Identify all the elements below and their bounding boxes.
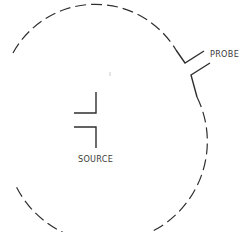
probe-icon — [176, 50, 210, 97]
source-label: SOURCE — [78, 154, 113, 164]
probe-label: PROBE — [210, 49, 239, 59]
source-icon — [74, 92, 96, 148]
diagram-canvas — [0, 0, 250, 232]
dashed-boundary-circle — [13, 4, 207, 232]
